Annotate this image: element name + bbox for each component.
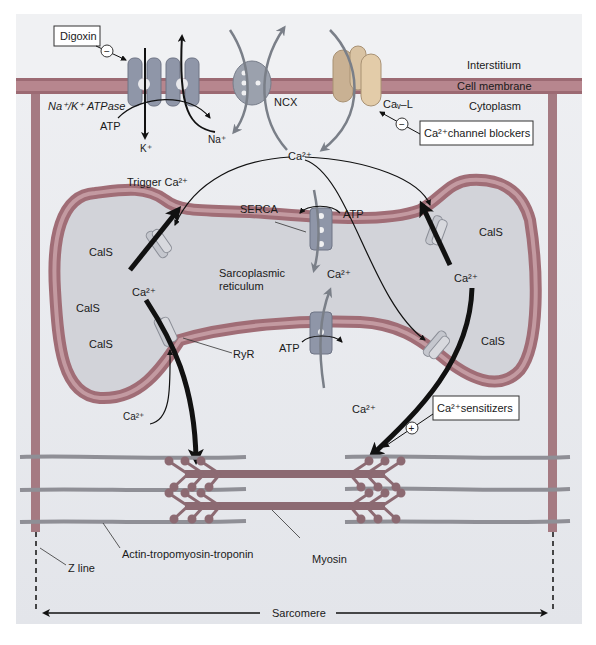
cytoplasm-label: Cytoplasm	[469, 100, 521, 112]
k-label: K⁺	[140, 143, 152, 154]
sarcomere-label: Sarcomere	[272, 607, 326, 619]
ca-label-right: Ca²⁺	[454, 272, 478, 284]
ca-sensitizers-label: Ca²⁺sensitizers	[437, 402, 513, 414]
atp-label-lower: ATP	[279, 342, 300, 354]
ca-sensitizers-box[interactable]: Ca²⁺sensitizers	[433, 396, 519, 420]
cardiac-ec-coupling-diagram: Digoxin − Ca²⁺channel blockers − Ca²⁺sen…	[0, 0, 596, 645]
ca-channel-blockers-box[interactable]: Ca²⁺channel blockers	[420, 121, 533, 145]
svg-text:+: +	[409, 423, 415, 434]
ca-blocker-inhibit-icon: −	[396, 118, 408, 130]
ca-label-sr: Ca²⁺	[327, 268, 351, 280]
na-label: Na⁺	[208, 134, 226, 145]
ca-label-cytoplasm: Ca²⁺	[288, 150, 312, 162]
cals-label-4: CalS	[479, 226, 503, 238]
digoxin-inhibit-icon: −	[101, 45, 113, 57]
cals-label-1: CalS	[89, 246, 113, 258]
myosin-label: Myosin	[312, 553, 347, 565]
sr-label-line1: Sarcoplasmic	[219, 267, 286, 279]
cav-l-label: Caᵥ–L	[383, 98, 413, 110]
trigger-ca-label: Trigger Ca²⁺	[127, 176, 188, 188]
serca-label: SERCA	[240, 203, 279, 215]
ca-label-trigger-lower: Ca²⁺	[123, 411, 144, 422]
digoxin-box[interactable]: Digoxin	[54, 26, 100, 46]
sr-label-line2: reticulum	[219, 280, 264, 292]
svg-text:−: −	[104, 46, 110, 57]
cals-label-2: CalS	[76, 302, 100, 314]
ca-label-lower-right: Ca²⁺	[352, 403, 376, 415]
na-k-atpase-label: Na⁺/K⁺ ATPase	[48, 100, 125, 112]
z-line-right	[548, 94, 557, 532]
z-line-label: Z line	[68, 562, 95, 574]
ca-label-left: Ca²⁺	[132, 286, 156, 298]
cals-label-3: CalS	[89, 338, 113, 350]
ryr-label: RyR	[233, 348, 254, 360]
interstitium-label: Interstitium	[467, 59, 521, 71]
serca-pump[interactable]	[310, 208, 332, 250]
cell-membrane-label: Cell membrane	[457, 80, 532, 92]
atp-label-serca: ATP	[343, 208, 364, 220]
actin-label: Actin-tropomyosin-troponin	[122, 548, 253, 560]
atp-label-nak: ATP	[100, 120, 121, 132]
digoxin-label: Digoxin	[60, 30, 97, 42]
ca-channel-blockers-label: Ca²⁺channel blockers	[424, 127, 531, 139]
z-line-left	[31, 94, 40, 532]
ncx-label: NCX	[274, 96, 298, 108]
svg-text:−: −	[399, 119, 405, 130]
ca-sensitizer-activate-icon: +	[406, 422, 418, 434]
cals-label-5: CalS	[481, 335, 505, 347]
